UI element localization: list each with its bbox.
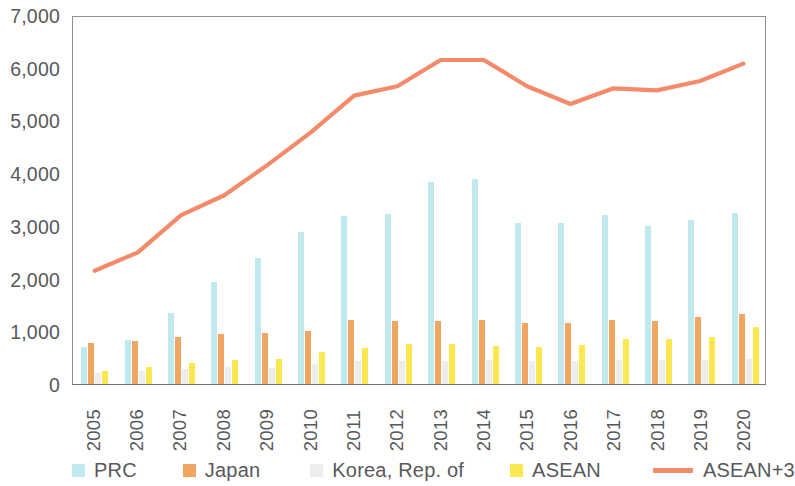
chart-legend: PRCJapanKorea, Rep. ofASEANASEAN+3 [72, 455, 772, 485]
x-axis-labels: 2005200620072008200920102011201220132014… [72, 389, 766, 451]
legend-square-swatch-icon [183, 464, 196, 477]
x-axis-tick-label: 2011 [343, 410, 365, 451]
legend-label: ASEAN+3 [703, 459, 795, 482]
x-axis-tick-label: 2014 [473, 409, 495, 451]
legend-label: Japan [205, 459, 261, 482]
y-axis-tick-label: 3,000 [10, 215, 60, 238]
x-axis-tick-label: 2013 [430, 409, 452, 451]
y-axis-tick-label: 7,000 [10, 5, 60, 28]
y-axis-tick-label: 5,000 [10, 110, 60, 133]
x-axis-tick-label: 2015 [516, 409, 538, 451]
legend-square-swatch-icon [510, 464, 523, 477]
legend-item-korea-rep-of[interactable]: Korea, Rep. of [310, 459, 464, 482]
legend-item-asean+3[interactable]: ASEAN+3 [653, 459, 795, 482]
line-layer [73, 17, 765, 384]
y-axis-tick-label: 6,000 [10, 57, 60, 80]
x-axis-tick-label: 2005 [83, 409, 105, 451]
x-axis-tick-label: 2018 [647, 409, 669, 451]
y-axis-tick-label: 1,000 [10, 321, 60, 344]
x-axis-tick-label: 2017 [603, 409, 625, 451]
plot-inner [73, 17, 765, 384]
y-axis-tick-label: 0 [49, 374, 60, 397]
x-axis-tick-label: 2009 [256, 409, 278, 451]
plot-area [72, 16, 766, 385]
legend-label: ASEAN [532, 459, 601, 482]
legend-square-swatch-icon [72, 464, 85, 477]
y-axis-tick-label: 4,000 [10, 163, 60, 186]
legend-label: Korea, Rep. of [332, 459, 464, 482]
x-axis-tick-label: 2010 [300, 409, 322, 451]
legend-item-asean[interactable]: ASEAN [510, 459, 601, 482]
x-axis-tick-label: 2008 [213, 409, 235, 451]
x-axis-tick-label: 2012 [386, 409, 408, 451]
x-axis-tick-label: 2019 [690, 409, 712, 451]
y-axis-labels: 01,0002,0003,0004,0005,0006,0007,000 [0, 16, 66, 385]
legend-line-swatch-icon [653, 468, 693, 473]
y-axis-tick-label: 2,000 [10, 268, 60, 291]
line-asean-plus-3 [95, 60, 744, 271]
x-axis-tick-label: 2006 [126, 409, 148, 451]
x-axis-tick-label: 2020 [733, 409, 755, 451]
x-axis-tick-label: 2007 [169, 409, 191, 451]
legend-item-japan[interactable]: Japan [183, 459, 261, 482]
x-axis-tick-label: 2016 [560, 409, 582, 451]
legend-square-swatch-icon [310, 464, 323, 477]
legend-item-prc[interactable]: PRC [72, 459, 137, 482]
legend-label: PRC [94, 459, 137, 482]
